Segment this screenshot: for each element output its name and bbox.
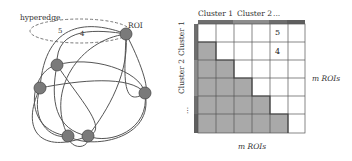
x-axis-label: m ROIs bbox=[238, 142, 266, 151]
svg-text:4: 4 bbox=[80, 30, 85, 38]
hypergraph-svg: 5 4 bbox=[0, 0, 176, 161]
roi-label: ROI bbox=[128, 21, 143, 30]
roi-node bbox=[139, 87, 151, 99]
roi-node bbox=[82, 130, 94, 142]
y-axis-label: m ROIs bbox=[312, 74, 340, 83]
svg-text:5: 5 bbox=[58, 27, 62, 35]
cell-value: 4 bbox=[275, 47, 280, 56]
roi-node bbox=[34, 82, 46, 94]
adjacency-matrix-diagram: Cluster 1 Cluster 2 ... Cluster 1 Cluste… bbox=[176, 0, 352, 161]
hypergraph-diagram: 5 4 hyperedge ROI bbox=[0, 0, 176, 161]
roi-node bbox=[62, 130, 74, 142]
cell-value: 5 bbox=[275, 28, 280, 37]
roi-node bbox=[51, 59, 63, 71]
hyperedge-label: hyperedge bbox=[20, 13, 60, 22]
